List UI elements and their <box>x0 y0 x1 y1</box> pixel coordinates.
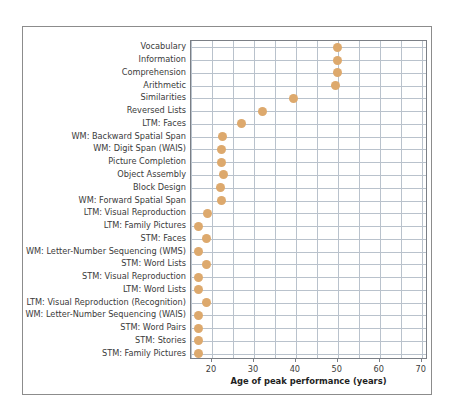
horizontal-gridline <box>191 124 426 125</box>
data-point[interactable] <box>216 183 225 192</box>
y-axis-label: LTM: Visual Reproduction (Recognition) <box>27 297 186 305</box>
x-tick-mark <box>295 359 296 362</box>
y-axis-label: Vocabulary <box>141 42 186 50</box>
y-axis-label: WM: Letter-Number Sequencing (WAIS) <box>25 310 186 318</box>
y-axis-label: Arithmetic <box>143 81 186 89</box>
y-axis-label: STM: Faces <box>141 234 186 242</box>
y-axis-label: LTM: Visual Reproduction <box>84 208 186 216</box>
vertical-gridline <box>380 41 381 358</box>
horizontal-gridline <box>191 264 426 265</box>
horizontal-gridline <box>191 328 426 329</box>
horizontal-gridline <box>191 213 426 214</box>
vertical-gridline <box>275 41 276 358</box>
vertical-gridline <box>233 41 234 358</box>
data-point[interactable] <box>331 81 340 90</box>
x-tick-mark <box>211 359 212 362</box>
horizontal-gridline <box>191 252 426 253</box>
data-point[interactable] <box>217 158 226 167</box>
x-tick-mark <box>253 359 254 362</box>
x-tick-label: 60 <box>374 364 384 374</box>
y-axis-label: Similarities <box>141 93 186 101</box>
x-tick-label: 50 <box>332 364 342 374</box>
data-point[interactable] <box>217 196 226 205</box>
horizontal-gridline <box>191 47 426 48</box>
plot-area <box>190 40 427 359</box>
horizontal-gridline <box>191 111 426 112</box>
y-axis-label: STM: Word Lists <box>121 259 186 267</box>
vertical-gridline <box>317 41 318 358</box>
y-axis-label: LTM: Faces <box>142 119 186 127</box>
data-point[interactable] <box>194 273 203 282</box>
data-point[interactable] <box>333 68 342 77</box>
horizontal-gridline <box>191 354 426 355</box>
horizontal-gridline <box>191 226 426 227</box>
y-axis-label: STM: Visual Reproduction <box>82 272 186 280</box>
data-point[interactable] <box>202 298 211 307</box>
y-axis-label: Object Assembly <box>117 170 186 178</box>
horizontal-gridline <box>191 73 426 74</box>
data-point[interactable] <box>194 336 203 345</box>
horizontal-gridline <box>191 201 426 202</box>
data-point[interactable] <box>333 43 342 52</box>
x-tick-mark <box>379 359 380 362</box>
data-point[interactable] <box>219 170 228 179</box>
vertical-gridline <box>401 41 402 358</box>
x-axis-title: Age of peak performance (years) <box>190 376 427 386</box>
horizontal-gridline <box>191 149 426 150</box>
data-point[interactable] <box>218 132 227 141</box>
horizontal-gridline <box>191 162 426 163</box>
vertical-gridline <box>191 41 192 358</box>
horizontal-gridline <box>191 188 426 189</box>
horizontal-gridline <box>191 341 426 342</box>
y-axis-category-labels: VocabularyInformationComprehensionArithm… <box>23 40 186 359</box>
horizontal-gridline <box>191 98 426 99</box>
plot-wrapper: 203040506070 <box>190 40 427 359</box>
x-tick-mark <box>337 359 338 362</box>
y-axis-label: STM: Stories <box>135 336 186 344</box>
data-point[interactable] <box>194 349 203 358</box>
y-axis-label: Comprehension <box>122 68 186 76</box>
data-point[interactable] <box>258 107 267 116</box>
vertical-gridline <box>254 41 255 358</box>
data-point[interactable] <box>237 119 246 128</box>
horizontal-gridline <box>191 60 426 61</box>
data-point[interactable] <box>203 209 212 218</box>
y-axis-label: Reversed Lists <box>127 106 186 114</box>
y-axis-label: STM: Family Pictures <box>102 349 186 357</box>
vertical-gridline <box>422 41 423 358</box>
y-axis-label: WM: Digit Span (WAIS) <box>93 144 186 152</box>
data-point[interactable] <box>194 222 203 231</box>
horizontal-gridline <box>191 290 426 291</box>
y-axis-label: WM: Forward Spatial Span <box>79 195 186 203</box>
vertical-gridline <box>296 41 297 358</box>
x-tick-label: 20 <box>206 364 216 374</box>
y-axis-label: STM: Word Pairs <box>120 323 186 331</box>
data-point[interactable] <box>202 234 211 243</box>
y-axis-label: Block Design <box>133 183 186 191</box>
data-point[interactable] <box>333 56 342 65</box>
x-tick-label: 30 <box>248 364 258 374</box>
y-axis-label: LTM: Family Pictures <box>104 221 186 229</box>
data-point[interactable] <box>194 247 203 256</box>
y-axis-label: Picture Completion <box>108 157 186 165</box>
y-axis-label: LTM: Word Lists <box>123 285 186 293</box>
y-axis-label: WM: Letter-Number Sequencing (WMS) <box>26 246 186 254</box>
horizontal-gridline <box>191 239 426 240</box>
data-point[interactable] <box>194 311 203 320</box>
y-axis-label: Information <box>139 55 186 63</box>
data-point[interactable] <box>194 285 203 294</box>
x-tick-label: 40 <box>290 364 300 374</box>
y-axis-label: WM: Backward Spatial Span <box>71 132 186 140</box>
horizontal-gridline <box>191 315 426 316</box>
data-point[interactable] <box>217 145 226 154</box>
data-point[interactable] <box>202 260 211 269</box>
data-point[interactable] <box>289 94 298 103</box>
vertical-gridline <box>359 41 360 358</box>
horizontal-gridline <box>191 86 426 87</box>
x-tick-mark <box>421 359 422 362</box>
data-point[interactable] <box>194 324 203 333</box>
vertical-gridline <box>212 41 213 358</box>
horizontal-gridline <box>191 277 426 278</box>
horizontal-gridline <box>191 303 426 304</box>
figure-panel: VocabularyInformationComprehensionArithm… <box>22 26 432 395</box>
